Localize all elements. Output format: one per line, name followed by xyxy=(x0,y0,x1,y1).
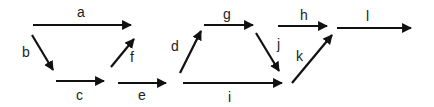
edge-label-i: i xyxy=(228,89,231,105)
edges-group xyxy=(32,25,411,83)
edge-label-d: d xyxy=(171,38,179,54)
arrow-edge-b xyxy=(32,35,53,70)
edge-label-e: e xyxy=(138,87,146,103)
edge-label-a: a xyxy=(77,4,85,20)
edge-label-l: l xyxy=(366,8,369,24)
arrow-edge-d xyxy=(180,31,201,73)
edge-label-g: g xyxy=(223,6,231,22)
network-diagram: abcfedgijhkl xyxy=(0,0,434,107)
edge-label-k: k xyxy=(296,48,304,64)
arrow-edge-j xyxy=(256,33,279,71)
edge-label-b: b xyxy=(22,44,30,60)
edge-label-f: f xyxy=(130,49,134,65)
edge-label-j: j xyxy=(276,36,280,52)
edge-label-c: c xyxy=(76,87,83,103)
edge-label-h: h xyxy=(300,7,308,23)
